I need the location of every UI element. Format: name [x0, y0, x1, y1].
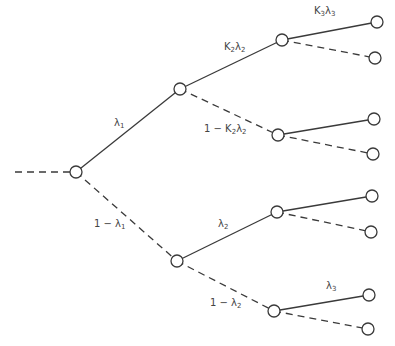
- label-prefix: 1 −: [204, 123, 225, 134]
- edge-n12-l121: [278, 119, 374, 135]
- label-subscript: 3: [331, 10, 335, 18]
- node-n2: [171, 255, 183, 267]
- edge-root-n1: [76, 89, 180, 172]
- label-prefix: 1 −: [94, 218, 115, 229]
- label-subscript: 2: [242, 128, 246, 136]
- label-k2-lambda2: K2λ2: [224, 41, 245, 54]
- label-one-minus-lambda2: 1 − λ2: [210, 297, 242, 310]
- label-one-minus-lambda1: 1 − λ1: [94, 218, 126, 231]
- label-subscript: 2: [224, 223, 228, 231]
- leaf-node: [365, 226, 377, 238]
- label-lambda3: λ3: [326, 280, 336, 293]
- leaf-node: [362, 323, 374, 335]
- edge-n22-l221: [274, 295, 369, 311]
- label-subscript: 1: [121, 223, 125, 231]
- edge-root-n2: [76, 172, 177, 261]
- leaf-node: [368, 113, 380, 125]
- edge-n11-l112: [282, 40, 375, 58]
- label-one-minus-k2-lambda2: 1 − K2λ2: [204, 123, 247, 136]
- probability-tree-diagram: [0, 0, 395, 346]
- edge-n21-l212: [277, 212, 371, 232]
- node-root: [70, 166, 82, 178]
- edge-n11-l111: [282, 22, 377, 40]
- leaf-node: [367, 148, 379, 160]
- leaf-node: [366, 190, 378, 202]
- leaf-node: [363, 289, 375, 301]
- label-subscript: 3: [332, 285, 336, 293]
- node-n21: [271, 206, 283, 218]
- label-lambda2: λ2: [218, 218, 228, 231]
- node-n22: [268, 305, 280, 317]
- leaf-node: [369, 52, 381, 64]
- leaf-node: [371, 16, 383, 28]
- edge-n21-l211: [277, 196, 372, 212]
- label-prefix: 1 −: [210, 297, 231, 308]
- label-lambda1: λ1: [114, 117, 124, 130]
- node-n12: [272, 129, 284, 141]
- edge-n22-l222: [274, 311, 368, 329]
- label-subscript: 2: [237, 302, 241, 310]
- label-k3-lambda3: K3λ3: [314, 5, 335, 18]
- edge-n12-l122: [278, 135, 373, 154]
- label-subscript: 1: [120, 122, 124, 130]
- node-n11: [276, 34, 288, 46]
- node-n1: [174, 83, 186, 95]
- label-subscript: 2: [241, 46, 245, 54]
